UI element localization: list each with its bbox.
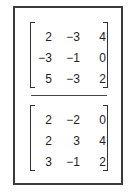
matrix-cell: 3 [56, 134, 80, 148]
matrix-card: 2 −3 4 −3 −1 0 5 −3 2 2 −2 0 2 3 4 3 −1 … [13, 6, 123, 185]
matrix-cell: −3 [56, 30, 80, 44]
matrix-cell: 2 [82, 72, 106, 86]
matrix-cell: −3 [56, 72, 80, 86]
matrix-a: 2 −3 4 −3 −1 0 5 −3 2 [30, 22, 108, 86]
matrix-cell: 4 [82, 134, 106, 148]
divider [31, 95, 107, 96]
matrix-cell: −2 [56, 113, 80, 127]
matrix-cell: 5 [28, 72, 52, 86]
matrix-cell: 2 [82, 155, 106, 169]
matrix-cell: 2 [28, 113, 52, 127]
matrix-cell: 4 [82, 30, 106, 44]
matrix-cell: 0 [82, 51, 106, 65]
matrix-cell: −1 [56, 51, 80, 65]
matrix-cell: −1 [56, 155, 80, 169]
matrix-b: 2 −2 0 2 3 4 3 −1 2 [30, 105, 108, 169]
matrix-cell: 3 [28, 155, 52, 169]
matrix-cell: −3 [28, 51, 52, 65]
matrix-cell: 0 [82, 113, 106, 127]
matrix-cell: 2 [28, 134, 52, 148]
matrix-cell: 2 [28, 30, 52, 44]
